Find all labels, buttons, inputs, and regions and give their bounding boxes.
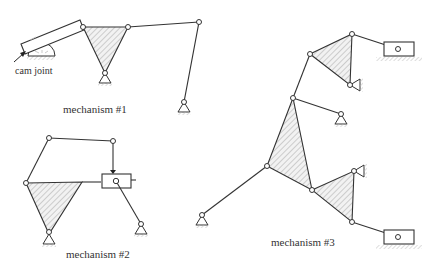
pin-joint — [103, 71, 108, 76]
mechanism-1-label: mechanism #1 — [63, 103, 127, 115]
ternary-link — [26, 182, 82, 234]
pin-joint — [310, 188, 315, 193]
kinematic-diagram: cam joint mechanism #1 — [0, 0, 439, 270]
mechanism-2: mechanism #2 — [24, 136, 149, 261]
pin-joint — [197, 20, 202, 25]
cam-joint-label: cam joint — [15, 65, 53, 76]
pin-joint — [352, 169, 357, 174]
fixed-joint-marker — [110, 170, 116, 174]
pin-joint — [200, 213, 205, 218]
ground-pivot — [42, 234, 56, 247]
pin-joint — [339, 112, 344, 117]
pin-joint — [81, 25, 86, 30]
mechanism-1: cam joint mechanism #1 — [14, 20, 202, 116]
pin-joint — [308, 52, 313, 57]
mechanism-3: mechanism #3 — [195, 32, 422, 250]
cam-joint-arrow — [14, 51, 26, 62]
ternary-link-large — [267, 98, 312, 190]
pin-joint — [47, 230, 52, 235]
ternary-link — [83, 27, 128, 73]
mechanisms-figure: cam joint mechanism #1 — [0, 0, 439, 270]
rocker-link — [184, 22, 199, 102]
top-link — [49, 138, 113, 141]
link — [202, 166, 267, 215]
ternary-link-right — [312, 171, 354, 222]
pin-joint — [396, 235, 401, 240]
pin-joint — [126, 25, 131, 30]
pin-joint — [291, 96, 296, 101]
pin-joint — [348, 83, 353, 88]
mechanism-3-label: mechanism #3 — [271, 236, 335, 248]
pin-joint — [350, 220, 355, 225]
pin-joint — [265, 164, 270, 169]
link — [293, 54, 310, 98]
pin-joint — [396, 47, 401, 52]
pin-joint — [113, 178, 118, 183]
ternary-link-upper — [310, 34, 352, 85]
pin-joint — [111, 139, 116, 144]
pin-joint — [24, 181, 29, 186]
pin-joint — [350, 32, 355, 37]
pin-joint — [182, 100, 187, 105]
left-link — [26, 138, 49, 183]
pin-joint — [139, 222, 144, 227]
mechanism-2-label: mechanism #2 — [66, 248, 130, 260]
coupler-link — [128, 22, 199, 27]
link — [293, 98, 341, 114]
pin-joint — [47, 136, 52, 141]
